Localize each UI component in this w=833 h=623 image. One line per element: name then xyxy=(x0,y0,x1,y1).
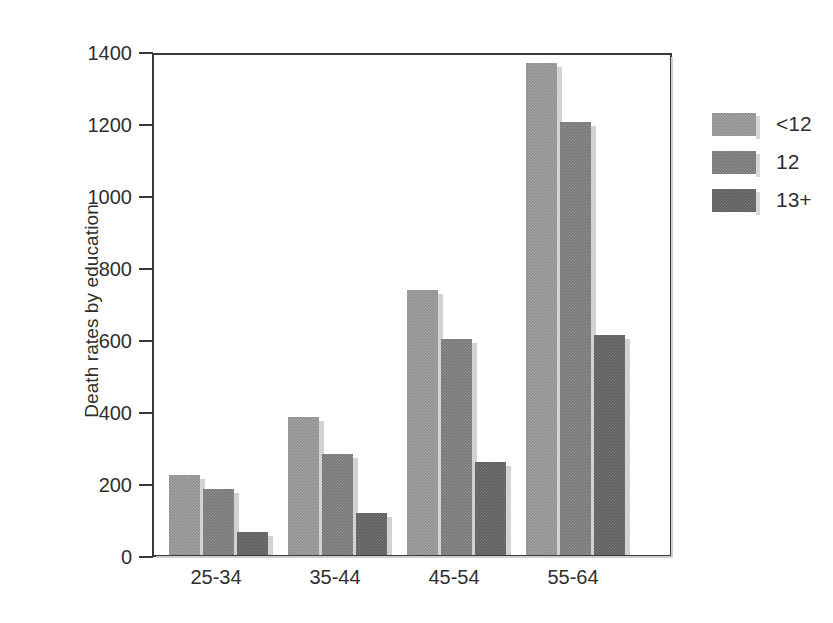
bar-fill xyxy=(203,489,234,555)
x-tick-label-55-64: 55-64 xyxy=(503,566,643,589)
bar-chart-figure: Death rates by education 020040060080010… xyxy=(0,0,833,623)
bar-55-64-12[interactable] xyxy=(560,122,591,555)
bar-25-34-13+[interactable] xyxy=(237,532,268,555)
bar-shadow xyxy=(387,517,392,555)
bar-45-54-<12[interactable] xyxy=(407,290,438,555)
legend-swatch-shadow xyxy=(756,192,760,215)
bar-35-44-<12[interactable] xyxy=(288,417,319,555)
legend-item-12[interactable]: 12 xyxy=(712,143,812,181)
y-tick-mark xyxy=(139,556,153,558)
y-tick-label: 400 xyxy=(42,402,132,425)
y-tick-label: 0 xyxy=(42,546,132,569)
legend-label: 12 xyxy=(776,150,799,174)
bar-fill xyxy=(322,454,353,555)
legend-label: <12 xyxy=(776,112,812,136)
legend-swatch-icon xyxy=(712,151,756,174)
plot-area xyxy=(152,53,672,557)
y-tick-label: 200 xyxy=(42,474,132,497)
bar-fill xyxy=(560,122,591,555)
y-tick-mark xyxy=(139,196,153,198)
legend: <121213+ xyxy=(712,105,812,219)
y-tick-label: 1000 xyxy=(42,186,132,209)
legend-swatch-shadow xyxy=(756,116,760,139)
y-tick-mark xyxy=(139,268,153,270)
bar-fill xyxy=(356,513,387,555)
y-tick-label: 800 xyxy=(42,258,132,281)
legend-item-<12[interactable]: <12 xyxy=(712,105,812,143)
bar-35-44-12[interactable] xyxy=(322,454,353,555)
y-tick-label: 1200 xyxy=(42,114,132,137)
bar-fill xyxy=(288,417,319,555)
bar-shadow xyxy=(506,466,511,555)
y-tick-mark xyxy=(139,124,153,126)
bar-35-44-13+[interactable] xyxy=(356,513,387,555)
bar-fill xyxy=(441,339,472,555)
bar-fill xyxy=(169,475,200,555)
bar-fill xyxy=(526,63,557,555)
y-tick-mark xyxy=(139,412,153,414)
bar-fill xyxy=(594,335,625,555)
y-axis-label: Death rates by education xyxy=(81,111,103,511)
bar-fill xyxy=(237,532,268,555)
bar-shadow xyxy=(625,339,630,555)
bar-45-54-13+[interactable] xyxy=(475,462,506,555)
y-tick-mark xyxy=(139,484,153,486)
legend-swatch-fill xyxy=(712,113,756,136)
bar-55-64-<12[interactable] xyxy=(526,63,557,555)
legend-item-13+[interactable]: 13+ xyxy=(712,181,812,219)
legend-swatch-icon xyxy=(712,189,756,212)
y-tick-label: 1400 xyxy=(42,42,132,65)
legend-swatch-fill xyxy=(712,189,756,212)
bar-fill xyxy=(407,290,438,555)
legend-swatch-shadow xyxy=(756,154,760,177)
bar-shadow xyxy=(268,536,273,555)
legend-swatch-icon xyxy=(712,113,756,136)
bar-25-34-<12[interactable] xyxy=(169,475,200,555)
bar-fill xyxy=(475,462,506,555)
bar-45-54-12[interactable] xyxy=(441,339,472,555)
legend-label: 13+ xyxy=(776,188,812,212)
legend-swatch-fill xyxy=(712,151,756,174)
y-tick-mark xyxy=(139,52,153,54)
y-tick-label: 600 xyxy=(42,330,132,353)
y-tick-mark xyxy=(139,340,153,342)
bar-25-34-12[interactable] xyxy=(203,489,234,555)
bar-55-64-13+[interactable] xyxy=(594,335,625,555)
